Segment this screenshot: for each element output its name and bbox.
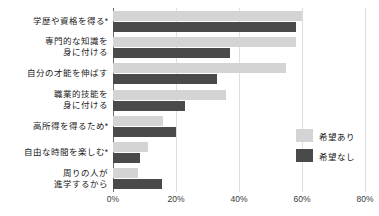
chart-legend: 希望あり希望なし (296, 129, 374, 169)
bar-chart: 学歴や資格を得る*専門的な知識を身に付ける自分の才能を伸ばす職業的技能を身に付け… (0, 0, 379, 216)
legend-swatch-icon (296, 129, 313, 142)
category-label: 職業的技能を身に付ける (0, 89, 108, 111)
bar-kibou-ari (113, 11, 302, 21)
bar-kibou-ari (113, 168, 138, 178)
category-label-line: 身に付ける (0, 100, 108, 111)
category-label: 周りの人が進学するから (0, 168, 108, 190)
category-label: 自分の才能を伸ばす (0, 68, 108, 79)
category-label-group: 学歴や資格を得る*専門的な知識を身に付ける自分の才能を伸ばす職業的技能を身に付け… (0, 8, 108, 192)
bar-kibou-nashi (113, 22, 296, 32)
category-label: 自由な時間を楽しむ* (0, 147, 108, 158)
category-label-line: 自由な時間を楽しむ* (0, 147, 108, 158)
bar-kibou-nashi (113, 179, 162, 189)
gridline-40% (239, 8, 240, 192)
legend-item[interactable]: 希望あり (296, 129, 374, 142)
category-label-line: 専門的な知識を (0, 36, 108, 47)
category-label: 高所得を得るため* (0, 121, 108, 132)
bar-kibou-nashi (113, 127, 176, 137)
category-label-line: 周りの人が (0, 168, 108, 179)
category-label: 専門的な知識を身に付ける (0, 36, 108, 58)
bar-kibou-ari (113, 37, 296, 47)
bar-kibou-nashi (113, 74, 217, 84)
category-label: 学歴や資格を得る* (0, 16, 108, 27)
legend-label: 希望あり (319, 130, 355, 142)
x-tick-label-20%: 20% (167, 194, 184, 204)
legend-swatch-icon (296, 149, 313, 162)
category-label-line: 身に付ける (0, 47, 108, 58)
category-label-line: 学歴や資格を得る* (0, 16, 108, 27)
x-tick-label-60%: 60% (293, 194, 310, 204)
x-tick-label-0%: 0% (107, 194, 119, 204)
category-label-line: 自分の才能を伸ばす (0, 68, 108, 79)
bar-kibou-ari (113, 116, 163, 126)
bar-kibou-nashi (113, 153, 140, 163)
x-tick-label-80%: 80% (356, 194, 373, 204)
category-label-line: 進学するから (0, 179, 108, 190)
bar-kibou-ari (113, 142, 148, 152)
category-label-line: 職業的技能を (0, 89, 108, 100)
bar-kibou-nashi (113, 101, 185, 111)
legend-item[interactable]: 希望なし (296, 149, 374, 162)
bar-kibou-nashi (113, 48, 230, 58)
bar-kibou-ari (113, 63, 286, 73)
x-axis-tick-labels: 0%20%40%60%80% (0, 194, 379, 208)
bar-kibou-ari (113, 90, 226, 100)
x-tick-label-40%: 40% (230, 194, 247, 204)
category-label-line: 高所得を得るため* (0, 121, 108, 132)
legend-label: 希望なし (319, 150, 355, 162)
